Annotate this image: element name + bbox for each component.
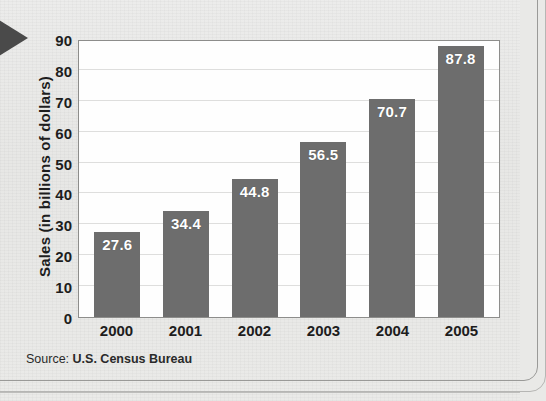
bar-slot-2005: 87.8: [438, 41, 484, 317]
bar-value-label: 34.4: [163, 215, 209, 232]
x-tick-label: 2001: [163, 322, 209, 339]
x-axis-tick-labels: 200020012002200320042005: [78, 322, 500, 339]
bar[interactable]: 87.8: [438, 46, 484, 317]
y-tick-label: 10: [28, 279, 72, 296]
bar-slot-2002: 44.8: [232, 41, 278, 317]
bar-slot-2003: 56.5: [300, 41, 346, 317]
bar[interactable]: 34.4: [163, 211, 209, 317]
y-tick-label: 40: [28, 186, 72, 203]
source-value: U.S. Census Bureau: [73, 352, 192, 366]
y-tick-label: 70: [28, 93, 72, 110]
bar-slot-2000: 27.6: [94, 41, 140, 317]
y-tick-label: 90: [28, 32, 72, 49]
y-tick-label: 0: [28, 310, 72, 327]
x-tick-label: 2000: [94, 322, 140, 339]
bar-slot-2004: 70.7: [369, 41, 415, 317]
bar-value-label: 27.6: [94, 236, 140, 253]
x-tick-label: 2002: [232, 322, 278, 339]
plot-area: 27.634.444.856.570.787.8: [78, 40, 500, 318]
x-tick-label: 2003: [301, 322, 347, 339]
bar[interactable]: 56.5: [300, 142, 346, 317]
x-tick-label: 2004: [370, 322, 416, 339]
bar-value-label: 56.5: [300, 146, 346, 163]
y-axis-tick-labels: 9080706050403020100: [26, 0, 72, 401]
x-tick-label: 2005: [439, 322, 485, 339]
bar-value-label: 44.8: [232, 183, 278, 200]
bar-slot-2001: 34.4: [163, 41, 209, 317]
bar[interactable]: 70.7: [369, 99, 415, 317]
y-tick-label: 30: [28, 217, 72, 234]
y-tick-label: 20: [28, 248, 72, 265]
bar-value-label: 70.7: [369, 103, 415, 120]
source-label: Source:: [26, 352, 69, 366]
bar-value-label: 87.8: [438, 50, 484, 67]
y-tick-label: 50: [28, 155, 72, 172]
source-note: Source: U.S. Census Bureau: [26, 352, 192, 366]
bar-series: 27.634.444.856.570.787.8: [79, 41, 499, 317]
y-tick-label: 60: [28, 124, 72, 141]
bar[interactable]: 27.6: [94, 232, 140, 317]
bar[interactable]: 44.8: [232, 179, 278, 317]
y-tick-label: 80: [28, 62, 72, 79]
